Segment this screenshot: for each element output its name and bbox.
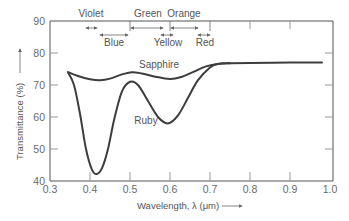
y-tick-labels: 40 50 60 70 80 90 <box>33 15 45 187</box>
svg-text:50: 50 <box>33 143 45 155</box>
svg-text:Wavelength, λ (μm): Wavelength, λ (μm) <box>137 200 219 211</box>
band-label-red: Red <box>196 37 214 48</box>
band-label-blue: Blue <box>104 37 124 48</box>
svg-text:90: 90 <box>33 15 45 27</box>
ruby-label: Ruby <box>134 115 157 126</box>
y-axis-title: Transmittance (%) <box>14 49 25 160</box>
svg-text:80: 80 <box>33 47 45 59</box>
svg-text:0.5: 0.5 <box>123 183 138 195</box>
svg-text:70: 70 <box>33 79 45 91</box>
transmittance-chart: 40 50 60 70 80 90 0.3 0.4 0.5 0.6 0.7 0.… <box>0 0 349 221</box>
sapphire-label: Sapphire <box>139 59 179 70</box>
svg-text:1.0: 1.0 <box>323 183 338 195</box>
sapphire-curve <box>68 63 322 81</box>
color-band-header: Violet Green Orange Blue Yellow Red <box>79 8 215 48</box>
band-label-yellow: Yellow <box>154 37 183 48</box>
band-label-orange: Orange <box>167 8 201 19</box>
plot-frame <box>50 21 333 181</box>
svg-text:0.8: 0.8 <box>243 183 258 195</box>
svg-text:0.6: 0.6 <box>163 183 178 195</box>
svg-text:0.3: 0.3 <box>43 183 58 195</box>
band-label-green: Green <box>134 8 162 19</box>
band-label-violet: Violet <box>79 8 104 19</box>
svg-text:Transmittance (%): Transmittance (%) <box>14 83 25 160</box>
svg-text:0.9: 0.9 <box>283 183 298 195</box>
x-tick-labels: 0.3 0.4 0.5 0.6 0.7 0.8 0.9 1.0 <box>43 183 338 195</box>
y-axis-ticks <box>50 53 333 149</box>
svg-text:60: 60 <box>33 111 45 123</box>
svg-text:0.4: 0.4 <box>83 183 98 195</box>
svg-text:0.7: 0.7 <box>203 183 218 195</box>
x-axis-title: Wavelength, λ (μm) <box>137 200 242 211</box>
